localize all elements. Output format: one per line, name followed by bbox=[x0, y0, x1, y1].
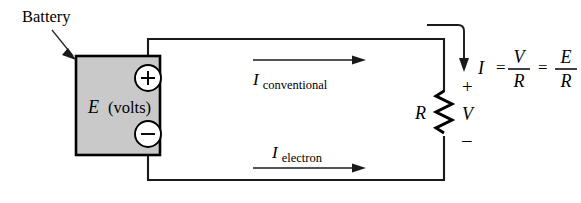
equation-fraction1-denominator: R bbox=[513, 71, 525, 91]
arrowhead-right-bottom bbox=[352, 164, 366, 173]
electron-current-subscript: electron bbox=[282, 151, 323, 165]
conventional-current-symbol: I bbox=[252, 70, 260, 89]
ohms-law-equation: I = V R = E R bbox=[477, 47, 577, 91]
arrowhead-leader bbox=[62, 48, 76, 60]
minus-terminal bbox=[135, 121, 161, 147]
voltage-minus-label: – bbox=[461, 129, 472, 150]
voltage-drop-label: V bbox=[462, 104, 475, 124]
source-symbol: E bbox=[87, 97, 99, 117]
equation-equals-2: = bbox=[538, 58, 548, 77]
battery-leader bbox=[52, 30, 76, 60]
equation-fraction2-denominator: R bbox=[560, 71, 572, 91]
conventional-current-subscript: conventional bbox=[263, 78, 328, 92]
resistor-current-arrow bbox=[427, 25, 469, 72]
circuit-diagram: Battery E (volts) I conventional I elect… bbox=[0, 0, 581, 203]
conventional-current-label: I conventional bbox=[252, 70, 328, 92]
equation-fraction1-numerator: V bbox=[514, 47, 527, 67]
battery-label: Battery bbox=[22, 7, 71, 26]
equation-lhs: I bbox=[477, 58, 485, 78]
equation-equals-1: = bbox=[496, 58, 506, 77]
electron-current-symbol: I bbox=[271, 143, 279, 162]
equation-fraction2-numerator: E bbox=[560, 47, 572, 67]
conventional-current-arrow bbox=[253, 56, 366, 65]
resistor-symbol bbox=[436, 91, 452, 133]
plus-terminal bbox=[135, 65, 161, 91]
electron-current-label: I electron bbox=[271, 143, 323, 165]
voltage-plus-label: + bbox=[462, 76, 473, 97]
source-unit: (volts) bbox=[108, 98, 151, 117]
source-label: E (volts) bbox=[87, 97, 151, 117]
resistor-label: R bbox=[414, 103, 426, 123]
circuit-svg: Battery E (volts) I conventional I elect… bbox=[0, 0, 581, 203]
arrowhead-down bbox=[459, 58, 469, 72]
arrowhead-right-top bbox=[352, 56, 366, 65]
